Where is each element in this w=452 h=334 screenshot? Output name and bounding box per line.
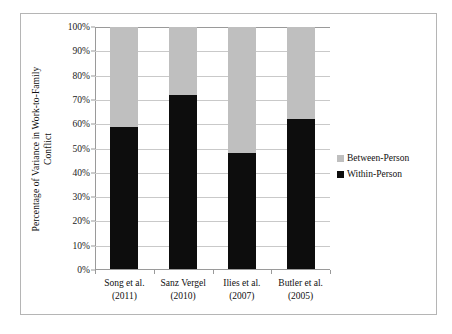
stacked-bar[interactable] [287, 27, 315, 270]
bar-segment-within-person[interactable] [110, 127, 138, 270]
x-axis-category-label-line: Sanz Vergel [160, 277, 205, 290]
legend-swatch-within-person [337, 171, 344, 178]
bar-group [271, 27, 330, 270]
y-axis-tick-label: 90% [48, 46, 90, 56]
legend-label-between-person: Between-Person [347, 153, 409, 163]
x-axis-category-label-line: (2005) [278, 290, 323, 303]
y-axis-tick-label: 70% [48, 95, 90, 105]
bar-group [95, 27, 154, 270]
stacked-bar[interactable] [169, 27, 197, 270]
x-tick-mark [95, 270, 96, 274]
x-tick-mark [213, 270, 214, 274]
y-axis-tick-label: 0% [48, 265, 90, 275]
x-axis-category-label-line: (2007) [223, 290, 260, 303]
plot-area: 0%10%20%30%40%50%60%70%80%90%100%Song et… [95, 27, 330, 270]
bar-segment-between-person[interactable] [228, 27, 256, 153]
x-tick-mark [154, 270, 155, 274]
y-axis-tick-label: 40% [48, 168, 90, 178]
y-axis-title-line-1: Percentage of Variance in Work-to-Family [31, 67, 43, 232]
legend-item-within-person[interactable]: Within-Person [337, 166, 409, 182]
y-axis-tick-label: 20% [48, 216, 90, 226]
x-axis-category-label-line: Ilies et al. [223, 277, 260, 290]
x-axis-category-label: Butler et al.(2005) [278, 277, 323, 302]
x-axis-category-label: Song et al.(2011) [104, 277, 144, 302]
x-axis-category-label-line: (2010) [160, 290, 205, 303]
bar-segment-between-person[interactable] [287, 27, 315, 119]
y-axis-tick-label: 50% [48, 144, 90, 154]
legend-label-within-person: Within-Person [347, 169, 402, 179]
bar-segment-within-person[interactable] [228, 153, 256, 270]
bar-group [213, 27, 272, 270]
bar-group [154, 27, 213, 270]
x-axis-category-label: Sanz Vergel(2010) [160, 277, 205, 302]
bar-segment-within-person[interactable] [287, 119, 315, 270]
y-axis-tick-label: 60% [48, 119, 90, 129]
x-axis-category-label-line: Butler et al. [278, 277, 323, 290]
stacked-bar[interactable] [110, 27, 138, 270]
x-tick-mark [271, 270, 272, 274]
chart-legend: Between-Person Within-Person [337, 150, 409, 182]
x-axis-category-label: Ilies et al.(2007) [223, 277, 260, 302]
x-tick-mark [330, 270, 331, 274]
y-axis-tick-label: 30% [48, 192, 90, 202]
legend-item-between-person[interactable]: Between-Person [337, 150, 409, 166]
x-axis-category-label-line: Song et al. [104, 277, 144, 290]
bar-segment-between-person[interactable] [110, 27, 138, 127]
y-axis-tick-label: 80% [48, 71, 90, 81]
y-axis-tick-label: 100% [48, 22, 90, 32]
y-axis-tick-label: 10% [48, 241, 90, 251]
figure-canvas: Percentage of Variance in Work-to-Family… [0, 0, 452, 334]
legend-swatch-between-person [337, 155, 344, 162]
bar-segment-within-person[interactable] [169, 95, 197, 270]
x-axis-category-label-line: (2011) [104, 290, 144, 303]
stacked-bar[interactable] [228, 27, 256, 270]
bar-segment-between-person[interactable] [169, 27, 197, 95]
